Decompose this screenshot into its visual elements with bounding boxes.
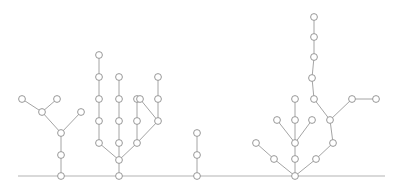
tree-node <box>253 140 260 147</box>
tree-node <box>58 130 65 137</box>
tree-edge <box>295 159 316 176</box>
tree-node <box>349 96 356 103</box>
tree-node <box>96 74 103 81</box>
tree-edge <box>42 112 61 133</box>
tree-node <box>309 75 316 82</box>
nodes-group <box>19 14 380 180</box>
tree-edge <box>140 99 158 121</box>
tree-edge <box>277 120 295 143</box>
tree-edge <box>274 159 295 176</box>
tree-node <box>292 96 299 103</box>
tree-node <box>311 96 318 103</box>
tree-node <box>116 173 123 180</box>
tree-edge <box>295 120 312 143</box>
tree-edge <box>61 112 81 133</box>
tree-node <box>292 140 299 147</box>
tree-node <box>311 54 318 61</box>
tree-node <box>78 109 85 116</box>
tree-edge <box>314 99 330 120</box>
tree-node <box>194 152 201 159</box>
tree-4-nodes <box>253 14 380 180</box>
tree-node <box>327 117 334 124</box>
tree-node <box>330 140 337 147</box>
tree-node <box>116 118 123 125</box>
tree-node <box>137 96 144 103</box>
tree-node <box>39 109 46 116</box>
diagram-canvas <box>0 0 399 193</box>
tree-node <box>54 96 61 103</box>
tree-node <box>292 117 299 124</box>
tree-node <box>116 74 123 81</box>
tree-node <box>116 96 123 103</box>
tree-node <box>313 156 320 163</box>
tree-node <box>96 118 103 125</box>
tree-node <box>19 96 26 103</box>
tree-node <box>309 117 316 124</box>
tree-node <box>58 152 65 159</box>
tree-1-nodes <box>19 96 85 180</box>
tree-node <box>96 52 103 59</box>
tree-node <box>271 156 278 163</box>
tree-1-edges <box>22 99 81 176</box>
tree-2-edges <box>99 55 158 176</box>
tree-node <box>274 117 281 124</box>
tree-node <box>116 157 123 164</box>
tree-node <box>134 140 141 147</box>
tree-edge <box>99 143 119 160</box>
tree-node <box>292 156 299 163</box>
tree-node <box>194 173 201 180</box>
tree-node <box>311 14 318 21</box>
tree-node <box>155 74 162 81</box>
tree-node <box>373 96 380 103</box>
tree-node <box>58 173 65 180</box>
tree-node <box>116 140 123 147</box>
tree-node <box>155 96 162 103</box>
forest-svg <box>0 0 399 193</box>
tree-node <box>194 130 201 137</box>
tree-node <box>311 34 318 41</box>
tree-node <box>134 118 141 125</box>
tree-edge <box>330 99 352 120</box>
tree-node <box>292 173 299 180</box>
tree-edge <box>137 121 158 143</box>
tree-node <box>96 96 103 103</box>
tree-2-nodes <box>96 52 162 180</box>
tree-node <box>96 140 103 147</box>
tree-node <box>155 118 162 125</box>
